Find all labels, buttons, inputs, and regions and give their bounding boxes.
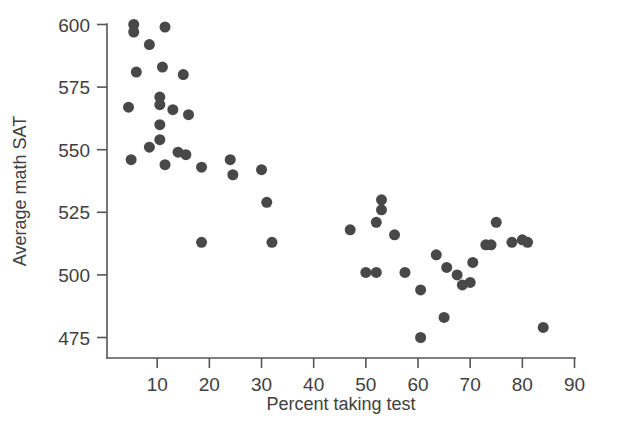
data-point: [431, 249, 442, 260]
data-point: [183, 109, 194, 120]
data-point: [225, 154, 236, 165]
data-point: [467, 257, 478, 268]
data-point: [389, 229, 400, 240]
x-tick-label: 60: [407, 374, 428, 395]
y-tick-label: 575: [58, 77, 90, 98]
data-point: [131, 67, 142, 78]
y-tick-label: 600: [58, 15, 90, 36]
y-tick-label: 525: [58, 202, 90, 223]
x-tick-label: 90: [564, 374, 585, 395]
data-point: [399, 267, 410, 278]
x-tick-label: 40: [303, 374, 324, 395]
data-point: [167, 104, 178, 115]
data-point: [126, 154, 137, 165]
data-point: [154, 99, 165, 110]
data-point: [266, 237, 277, 248]
data-point: [196, 237, 207, 248]
x-axis-title: Percent taking test: [266, 394, 415, 414]
data-point: [506, 237, 517, 248]
data-point: [371, 267, 382, 278]
data-point: [180, 149, 191, 160]
data-point: [486, 239, 497, 250]
data-point: [123, 102, 134, 113]
data-point: [144, 142, 155, 153]
data-point: [345, 224, 356, 235]
x-tick-label: 50: [355, 374, 376, 395]
data-point: [491, 217, 502, 228]
data-points-layer: [123, 19, 549, 343]
data-point: [196, 162, 207, 173]
x-tick-label: 70: [460, 374, 481, 395]
data-point: [227, 169, 238, 180]
data-point: [452, 269, 463, 280]
y-tick-label: 500: [58, 265, 90, 286]
data-point: [441, 262, 452, 273]
data-point: [439, 312, 450, 323]
y-axis-title: Average math SAT: [10, 116, 30, 266]
data-point: [256, 164, 267, 175]
y-tick-label: 550: [58, 140, 90, 161]
y-axis-ticks: 475500525550575600: [58, 15, 107, 349]
plot-canvas: 475500525550575600 102030405060708090 Pe…: [0, 0, 618, 432]
data-point: [128, 27, 139, 38]
data-point: [465, 277, 476, 288]
x-tick-label: 10: [147, 374, 168, 395]
data-point: [160, 159, 171, 170]
data-point: [376, 194, 387, 205]
data-point: [160, 22, 171, 33]
data-point: [157, 62, 168, 73]
data-point: [522, 237, 533, 248]
data-point: [415, 332, 426, 343]
axes: [107, 24, 575, 358]
data-point: [154, 119, 165, 130]
x-tick-label: 20: [199, 374, 220, 395]
data-point: [371, 217, 382, 228]
data-point: [261, 197, 272, 208]
x-tick-label: 30: [251, 374, 272, 395]
y-tick-label: 475: [58, 328, 90, 349]
data-point: [178, 69, 189, 80]
scatter-plot-figure: 475500525550575600 102030405060708090 Pe…: [0, 0, 618, 432]
x-axis-ticks: 102030405060708090: [147, 358, 585, 395]
data-point: [154, 134, 165, 145]
data-point: [415, 284, 426, 295]
x-tick-label: 80: [512, 374, 533, 395]
data-point: [144, 39, 155, 50]
data-point: [376, 204, 387, 215]
data-point: [360, 267, 371, 278]
data-point: [538, 322, 549, 333]
